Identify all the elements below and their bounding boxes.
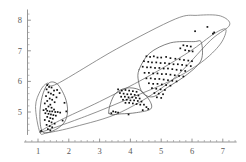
data-point <box>46 116 48 118</box>
data-point <box>110 112 112 114</box>
data-point <box>54 101 56 103</box>
data-point <box>132 103 134 105</box>
data-point <box>148 82 150 84</box>
data-point <box>160 97 162 99</box>
hull-middle-hull <box>40 29 226 132</box>
data-point <box>149 56 151 58</box>
data-point <box>49 117 51 119</box>
data-point <box>147 108 149 110</box>
data-point <box>173 63 175 65</box>
data-point <box>154 92 156 94</box>
data-point <box>164 62 166 64</box>
data-point <box>150 66 152 68</box>
y-axis-tick-label: 8 <box>18 15 22 25</box>
data-point <box>49 130 51 132</box>
data-point <box>137 100 139 102</box>
data-point <box>190 65 192 67</box>
data-point <box>170 74 172 76</box>
data-point <box>176 69 178 71</box>
hull-outer-hull <box>36 15 230 135</box>
data-point <box>50 114 52 116</box>
data-point <box>152 83 154 85</box>
data-point <box>119 92 121 94</box>
data-point <box>146 77 148 79</box>
y-axis-tick-label: 6 <box>18 76 22 86</box>
data-point <box>178 75 180 77</box>
data-point <box>49 111 51 113</box>
data-point <box>139 98 141 100</box>
data-point <box>188 50 190 52</box>
data-point <box>134 94 136 96</box>
data-point <box>54 123 56 125</box>
data-point <box>146 55 148 57</box>
data-point <box>51 126 53 128</box>
data-point <box>46 110 48 112</box>
data-point <box>53 109 55 111</box>
data-point <box>207 26 209 28</box>
data-point <box>46 84 48 86</box>
data-point <box>143 60 145 62</box>
data-point <box>150 77 152 79</box>
data-point <box>112 111 114 113</box>
data-point <box>161 84 163 86</box>
data-point <box>175 58 177 60</box>
series-cluster-right <box>142 26 215 99</box>
data-point <box>157 73 159 75</box>
data-point <box>49 104 51 106</box>
data-point <box>120 96 122 98</box>
data-point <box>50 93 52 95</box>
data-point <box>46 89 48 91</box>
data-point <box>164 89 166 91</box>
data-point <box>146 66 148 68</box>
data-point <box>59 92 61 94</box>
data-point <box>62 120 64 122</box>
data-point <box>47 128 49 130</box>
data-point <box>184 49 186 51</box>
data-point <box>148 72 150 74</box>
data-point <box>181 64 183 66</box>
data-point <box>139 104 141 106</box>
data-point <box>142 66 144 68</box>
data-point <box>52 118 54 120</box>
data-point <box>136 91 138 93</box>
data-point <box>51 122 53 124</box>
data-point <box>136 103 138 105</box>
data-point <box>45 108 47 110</box>
data-point <box>49 125 51 127</box>
data-point <box>170 57 172 59</box>
data-point <box>132 90 134 92</box>
data-point <box>165 56 167 58</box>
data-point <box>212 33 214 35</box>
data-point <box>154 67 156 69</box>
x-axis-tick-label: 3 <box>97 146 101 156</box>
data-point <box>186 65 188 67</box>
x-axis-tick-label: 5 <box>159 146 163 156</box>
data-point <box>121 90 123 92</box>
data-point <box>122 99 124 101</box>
data-point <box>162 93 164 95</box>
data-point <box>53 114 55 116</box>
data-point <box>43 109 45 111</box>
data-point <box>138 95 140 97</box>
data-point <box>54 111 56 113</box>
x-axis-tick-label: 6 <box>190 146 194 156</box>
data-point <box>48 86 50 88</box>
data-point <box>174 74 176 76</box>
data-point <box>146 106 148 108</box>
y-axis-tick-label: 7 <box>18 46 22 56</box>
data-point <box>117 89 119 91</box>
data-point <box>179 48 181 50</box>
data-point <box>128 90 130 92</box>
data-point <box>184 70 186 72</box>
data-point <box>48 120 50 122</box>
data-point <box>45 112 47 114</box>
data-point <box>51 111 53 113</box>
data-point <box>154 78 156 80</box>
data-point <box>163 79 165 81</box>
data-point <box>59 112 61 114</box>
data-point <box>159 67 161 69</box>
data-point <box>125 102 127 104</box>
x-axis-tick-label: 7 <box>221 146 225 156</box>
data-point <box>49 98 51 100</box>
y-axis-tick-label: 5 <box>18 107 22 117</box>
